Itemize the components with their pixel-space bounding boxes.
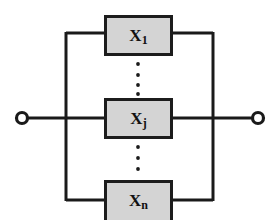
ellipsis-dot-upper-1 [136,62,140,66]
block-rect-x1 [106,17,172,55]
left-terminal-circle [17,113,28,124]
right-terminal-circle [253,113,264,124]
ellipsis-dot-upper-2 [136,73,140,77]
ellipsis-dot-upper-3 [136,83,140,87]
diagram-canvas [0,0,278,220]
reliability-block-diagram: X1 Xj Xn [0,0,278,220]
ellipsis-dot-lower-1 [136,145,140,149]
block-rect-xn [106,182,172,221]
ellipsis-dot-lower-3 [136,167,140,171]
block-rect-xj [106,100,172,138]
ellipsis-dot-upper-4 [136,92,140,96]
ellipsis-dot-lower-2 [136,156,140,160]
